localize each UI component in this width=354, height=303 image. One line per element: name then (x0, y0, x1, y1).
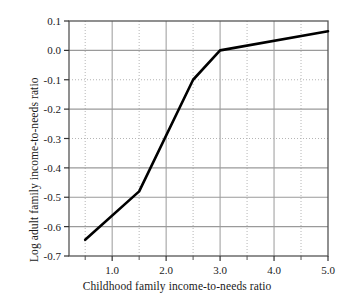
x-tick-label: 2.0 (159, 264, 173, 276)
y-tick-label: 0.1 (47, 15, 61, 27)
y-tick-label: -0.3 (44, 133, 62, 145)
x-tick-label: 5.0 (321, 264, 335, 276)
line-chart-plot: 1.02.03.04.05.00.10.0-0.1-0.2-0.3-0.4-0.… (0, 0, 354, 303)
y-axis-title: Log adult family income-to-needs ratio (28, 77, 40, 262)
y-tick-label: 0.0 (47, 44, 61, 56)
y-tick-label: -0.5 (44, 191, 62, 203)
x-axis-title: Childhood family income-to-needs ratio (0, 280, 354, 292)
data-series-line (85, 31, 328, 240)
x-tick-label: 1.0 (105, 264, 119, 276)
y-tick-label: -0.4 (44, 162, 62, 174)
chart-figure: 1.02.03.04.05.00.10.0-0.1-0.2-0.3-0.4-0.… (0, 0, 354, 303)
x-tick-label: 4.0 (267, 264, 281, 276)
x-tick-label: 3.0 (213, 264, 227, 276)
y-tick-label: -0.6 (44, 221, 62, 233)
y-tick-label: -0.2 (44, 103, 61, 115)
y-tick-label: -0.7 (44, 250, 62, 262)
y-tick-label: -0.1 (44, 74, 61, 86)
